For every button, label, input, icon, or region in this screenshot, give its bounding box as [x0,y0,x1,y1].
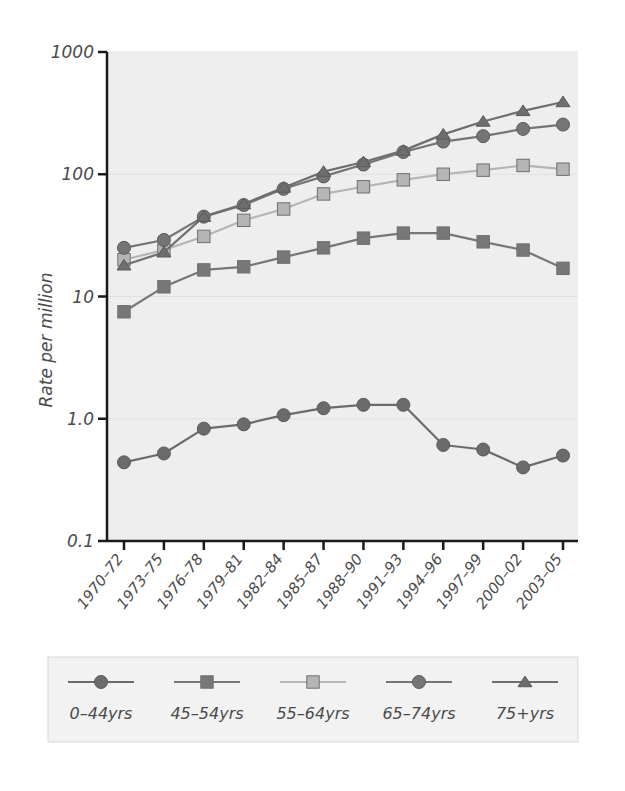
y-axis-tick-label: 10 [72,287,94,307]
legend-entry-label: 55–64yrs [276,704,349,723]
data-point-marker [477,164,489,176]
line-chart: 1000100101.00.1 1970–721973–751976–78197… [0,0,625,791]
data-point-marker [118,241,131,254]
data-point-marker [307,676,319,688]
data-point-marker [517,461,530,474]
data-point-marker [277,251,289,263]
y-axis-ticks: 1000100101.00.1 [51,42,107,551]
y-axis-title: Rate per million [36,272,56,407]
data-point-marker [477,130,490,143]
legend-entry-label: 75+yrs [496,704,554,723]
data-point-marker [517,122,530,135]
data-point-marker [397,174,409,186]
data-point-marker [477,443,490,456]
data-point-marker [201,676,213,688]
y-axis-tick-label: 0.1 [67,531,94,551]
data-point-marker [277,203,289,215]
data-point-marker [198,264,210,276]
data-point-marker [357,181,369,193]
chart-legend: 0–44yrs45–54yrs55–64yrs65–74yrs75+yrs [48,657,578,742]
data-point-marker [237,418,250,431]
data-point-marker [397,227,409,239]
x-axis-ticks: 1970–721973–751976–781979–811982–841985–… [73,541,566,612]
data-point-marker [95,676,108,689]
data-point-marker [413,676,426,689]
data-point-marker [517,159,529,171]
data-point-marker [238,214,250,226]
chart-figure: 1000100101.00.1 1970–721973–751976–78197… [0,0,625,791]
data-point-marker [357,398,370,411]
y-axis-title-text: Rate per million [36,272,56,407]
data-point-marker [317,402,330,415]
data-point-marker [118,456,131,469]
data-point-marker [238,261,250,273]
data-point-marker [198,230,210,242]
data-point-marker [197,422,210,435]
data-point-marker [317,242,329,254]
data-point-marker [557,262,569,274]
legend-entry-label: 65–74yrs [382,704,455,723]
data-point-marker [357,232,369,244]
data-point-marker [158,281,170,293]
data-point-marker [557,449,570,462]
data-point-marker [118,306,130,318]
data-point-marker [437,438,450,451]
legend-entry-label: 45–54yrs [170,704,243,723]
data-point-marker [157,233,170,246]
data-point-marker [317,188,329,200]
data-point-marker [157,447,170,460]
data-point-marker [397,398,410,411]
data-point-marker [517,244,529,256]
data-point-marker [437,227,449,239]
data-point-marker [277,409,290,422]
data-point-marker [437,168,449,180]
legend-entry-label: 0–44yrs [70,704,133,723]
data-point-marker [477,236,489,248]
y-axis-tick-label: 1.0 [67,409,94,429]
data-point-marker [557,163,569,175]
y-axis-tick-label: 1000 [51,42,94,62]
legend-box [48,657,578,742]
data-point-marker [557,118,570,131]
y-axis-tick-label: 100 [62,164,94,184]
